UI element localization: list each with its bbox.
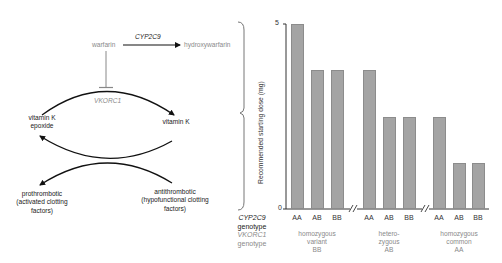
vitamin-k-epoxide-label: vitamin K epoxide [28, 114, 55, 131]
hydroxywarfarin-label: hydroxywarfarin [184, 41, 231, 49]
prothrombotic-label: prothrombotic (activated clotting factor… [16, 190, 67, 215]
group-label-homozygous-common: homozygous common AA [440, 230, 477, 255]
axis-break-1 [349, 205, 357, 212]
x-label: AB [307, 214, 327, 221]
axis-break-2 [421, 205, 429, 212]
vkorc1-enzyme-label: VKORC1 [94, 97, 121, 105]
vkorc1-genotype-label: genotype [238, 240, 267, 248]
bar-bb [331, 70, 344, 209]
bar-ab [453, 163, 466, 209]
x-label: AB [449, 214, 469, 221]
vkorc1-row-label: VKORC1 [238, 231, 267, 239]
y-axis-label: Recommended starting dose (mg) [257, 81, 264, 184]
cyp2c9-enzyme-label: CYP2C9 [135, 33, 161, 41]
x-label: BB [468, 214, 488, 221]
arc-anti-to-prothrombotic [40, 163, 172, 185]
x-label: AA [359, 214, 379, 221]
antithrombotic-label: antithrombotic (hypofunctional clotting … [141, 188, 208, 213]
y-tick-0: 0 [278, 204, 282, 211]
x-label: BB [399, 214, 419, 221]
y-tick-5: 5 [275, 19, 279, 26]
group-label-homozygous-variant: homozygous variant BB [298, 230, 335, 255]
bar-bb [403, 117, 416, 210]
warfarin-label: warfarin [92, 41, 115, 49]
curly-brace [238, 22, 244, 210]
x-label: AA [287, 214, 307, 221]
x-label: AA [429, 214, 449, 221]
vitamin-k-label: vitamin K [162, 118, 189, 126]
bar-ab [311, 70, 324, 209]
bar-aa [291, 24, 304, 209]
bar-bb [472, 163, 485, 209]
arc-vitk-to-epoxide [40, 136, 172, 158]
x-label: BB [327, 214, 347, 221]
bar-aa [363, 70, 376, 209]
bar-aa [433, 117, 446, 210]
x-label: AB [379, 214, 399, 221]
group-label-heterozygous: hetero- zygous AB [379, 230, 400, 255]
bar-ab [383, 117, 396, 210]
cyp2c9-row-label: CYP2C9 [238, 214, 265, 222]
